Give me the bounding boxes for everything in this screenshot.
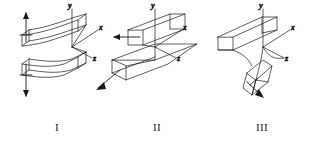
lower-back-bottom-edge-i [29,63,86,72]
lower-front-face-ii [112,60,126,80]
upper-right-face-iii [233,17,277,50]
z-axis-line-iii [263,47,284,58]
load-arrow-down-head-i [23,90,29,97]
upper-front-face-ii [128,30,143,45]
figure-ii-load-arrows [96,34,140,90]
figure-i-lower-block [22,52,86,77]
figure-i-load-arrows [20,12,32,97]
y-axis-label-i: y [67,1,72,10]
lower-top-face-iii [247,60,272,80]
crack-flank-lower-i [72,47,86,52]
load-arrow-upper-head-ii [113,34,120,40]
crack-flank-upper-ii [143,45,155,47]
x-axis-label-ii: x [182,23,187,32]
lower-inner-top-edge-ii [126,60,155,66]
lower-top-face-ii [112,44,197,60]
y-axis-label-ii: y [150,1,155,10]
figure-i-upper-block [22,14,86,46]
load-arrow-up-head-i [23,12,29,19]
figure-caption-i: I [37,121,77,133]
upper-right-face-i [78,14,86,31]
figure-ii-upper-block [128,14,185,45]
figure-caption-ii: II [137,121,177,133]
crack-flank-upper-i [72,25,86,47]
crack-flank-left-iii [233,50,252,66]
x-axis-label-i: x [98,23,103,32]
figure-caption-iii: III [242,121,282,133]
lower-bottom-left-edge-ii [112,57,155,73]
x-axis-line-i [72,30,98,47]
upper-front-bottom-edge-i [22,31,78,46]
figure-ii-group: y x z [96,1,197,90]
y-axis-label-iii: y [258,1,263,10]
load-arrow-tick-iii [250,78,258,85]
z-axis-line-i [72,47,92,58]
x-axis-label-iii: x [290,23,295,32]
figure-i-axes [72,9,98,58]
lower-inner-edge-iii [256,80,268,82]
figure-iii-lower-block [243,60,272,95]
lower-left-bottom-edge-i [22,70,29,75]
figure-ii-lower-block [112,44,197,80]
figure-iii-upper-block [218,17,277,50]
x-axis-line-ii [155,30,182,47]
z-axis-label-i: z [92,54,97,63]
x-axis-line-iii [263,30,290,47]
lower-top-back-edge-i [29,52,86,61]
upper-right-face-ii [143,14,185,45]
figure-i-group: y x z [20,1,103,97]
lower-bottom-front-edge-ii [126,44,197,80]
figure-iii-axes [263,9,290,58]
upper-front-face-iii [218,37,233,50]
upper-top-face-ii [128,14,185,30]
figure-iii-group: y x z [218,1,295,98]
upper-bottom-back-edge-iii [262,30,277,33]
z-axis-label-iii: z [284,54,289,63]
